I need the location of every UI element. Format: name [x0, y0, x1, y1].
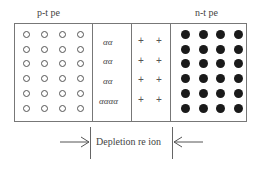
depletion-region-label: Depletion re ion: [96, 136, 161, 147]
hole-icon: [77, 90, 84, 97]
electron-icon: [199, 89, 208, 98]
hole-icon: [41, 46, 48, 53]
electron-icon: [216, 45, 225, 54]
electron-icon: [199, 59, 208, 68]
arrow-left-icon: [173, 136, 203, 148]
positive-ion-icon: +: [138, 94, 144, 105]
n-type-label: n-t pe: [195, 7, 218, 18]
hole-icon: [41, 105, 48, 112]
positive-ion-icon: +: [138, 74, 144, 85]
electron-icon: [234, 45, 243, 54]
electron-icon: [234, 74, 243, 83]
p-type-label: p-t pe: [37, 7, 60, 18]
negative-ion-symbol: αα: [103, 56, 112, 66]
positive-ion-icon: +: [138, 35, 144, 46]
hole-icon: [41, 31, 48, 38]
hole-icon: [59, 46, 66, 53]
hole-icon: [77, 105, 84, 112]
electron-icon: [199, 74, 208, 83]
electron-icon: [181, 45, 190, 54]
hole-icon: [41, 90, 48, 97]
depletion-left-divider: [92, 23, 93, 122]
positive-ion-icon: +: [156, 94, 162, 105]
hole-icon: [59, 105, 66, 112]
negative-ion-symbol: αα: [103, 37, 112, 47]
negative-ion-symbol: αα: [103, 76, 112, 86]
positive-ion-icon: +: [156, 74, 162, 85]
electron-icon: [216, 30, 225, 39]
depletion-boundary-left: [90, 127, 91, 159]
electron-icon: [234, 59, 243, 68]
electron-icon: [199, 45, 208, 54]
electron-icon: [199, 104, 208, 113]
electron-icon: [199, 30, 208, 39]
arrow-right-icon: [60, 136, 90, 148]
hole-icon: [77, 31, 84, 38]
hole-icon: [77, 46, 84, 53]
depletion-center-divider: [131, 23, 132, 122]
hole-icon: [59, 31, 66, 38]
electron-icon: [216, 89, 225, 98]
depletion-right-divider: [170, 23, 171, 122]
hole-icon: [59, 90, 66, 97]
positive-ion-icon: +: [138, 55, 144, 66]
electron-icon: [234, 30, 243, 39]
electron-icon: [234, 89, 243, 98]
hole-icon: [23, 90, 30, 97]
positive-ion-icon: +: [156, 35, 162, 46]
electron-icon: [216, 104, 225, 113]
electron-icon: [181, 89, 190, 98]
electron-icon: [181, 104, 190, 113]
hole-icon: [23, 105, 30, 112]
positive-ion-icon: +: [156, 55, 162, 66]
hole-icon: [23, 46, 30, 53]
negative-ion-symbol: αααα: [99, 96, 118, 106]
electron-icon: [234, 104, 243, 113]
electron-icon: [181, 30, 190, 39]
hole-icon: [23, 31, 30, 38]
